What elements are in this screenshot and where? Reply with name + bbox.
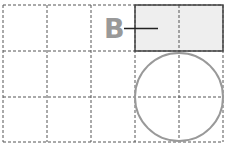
label-b: B: [104, 13, 125, 44]
grid-diagram: B: [0, 0, 225, 151]
